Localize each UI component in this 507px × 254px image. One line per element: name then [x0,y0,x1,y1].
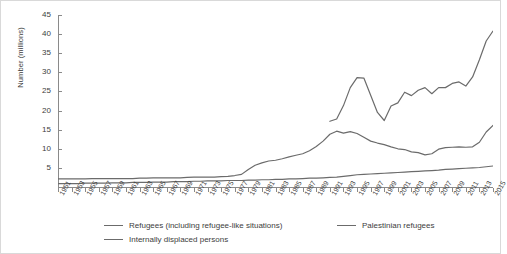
x-axis-ticks: 1951195319551957195919611963196519671969… [58,188,493,189]
y-tick-label: 25 [42,86,51,95]
legend-item-internally-displaced-persons: Internally displaced persons [104,235,228,244]
y-tick-label: 40 [42,29,51,38]
legend-swatch-internally-displaced-persons [104,239,123,240]
legend-label-palestinian-refugees: Palestinian refugees [362,221,435,230]
legend-swatch-refugees [104,225,123,226]
y-tick-label: 30 [42,67,51,76]
y-tick-mark [58,53,62,54]
y-tick-mark [58,34,62,35]
series-lines [58,15,493,187]
plot-area: 51015202530354045 [58,15,493,187]
y-tick-label: 20 [42,106,51,115]
legend-item-refugees: Refugees (including refugee-like situati… [104,221,282,230]
line-internally-displaced-persons [330,31,493,121]
y-tick-mark [58,168,62,169]
y-tick-label: 45 [42,10,51,19]
y-tick-mark [58,149,62,150]
y-tick-label: 35 [42,48,51,57]
legend-label-refugees: Refugees (including refugee-like situati… [129,221,282,230]
y-tick-mark [58,15,62,16]
y-tick-mark [58,91,62,92]
legend-item-palestinian-refugees: Palestinian refugees [337,221,435,230]
y-tick-mark [58,111,62,112]
y-tick-label: 5 [47,163,51,172]
x-tick-label: 2015 [493,180,507,197]
legend-swatch-palestinian-refugees [337,225,356,226]
y-tick-mark [58,130,62,131]
y-tick-mark [58,72,62,73]
y-tick-label: 15 [42,125,51,134]
y-tick-label: 10 [42,144,51,153]
chart-legend: Refugees (including refugee-like situati… [1,220,502,252]
y-axis-title: Number (millions) [16,0,25,123]
legend-label-internally-displaced-persons: Internally displaced persons [129,235,228,244]
